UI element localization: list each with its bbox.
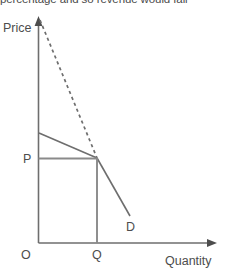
demand-lower-segment [97,158,130,216]
demand-upper-segment [39,133,97,158]
x-axis-label: Quantity [165,254,212,268]
x-axis-arrow-icon [207,239,217,247]
quantity-label: Q [92,248,102,262]
price-label: P [23,152,31,166]
y-axis-label: Price [3,21,32,35]
figure-canvas: percentage and so revenue would fall Pri… [0,0,229,273]
demand-curve-diagram: Price Quantity P O Q D [0,0,229,273]
demand-curve-label: D [126,220,135,234]
origin-label: O [21,248,31,262]
